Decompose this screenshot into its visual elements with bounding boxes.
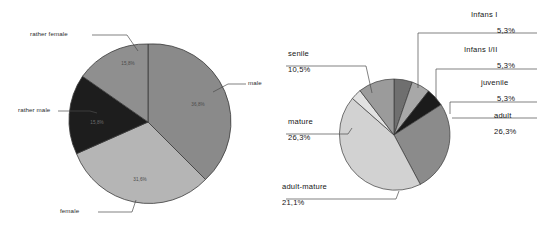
pct-mature: 26,3% <box>288 134 311 142</box>
right-pie-slices <box>339 79 450 190</box>
pie-charts-svg <box>0 0 543 235</box>
pct-senile: 10,5% <box>288 66 311 74</box>
pct-male: 36,8% <box>191 102 205 107</box>
label-infans-1: Infans I <box>471 11 498 19</box>
pct-rather-male: 15,8% <box>90 120 104 125</box>
pct-female: 31,6% <box>133 177 147 182</box>
label-mature: mature <box>288 118 313 126</box>
pct-infans-1-2: 5,3% <box>497 62 515 70</box>
label-male: male <box>248 79 262 87</box>
label-senile: senile <box>288 50 309 58</box>
pct-infans-1: 5,3% <box>497 27 515 35</box>
label-adult: adult <box>494 112 511 120</box>
figure-canvas: rather female male rather male female 36… <box>0 0 543 235</box>
pct-adult-mature: 21,1% <box>282 199 305 207</box>
pct-adult: 26,3% <box>494 128 517 136</box>
label-rather-male: rather male <box>18 106 50 114</box>
label-adult-mature: adult-mature <box>282 183 327 191</box>
pct-rather-female: 15,8% <box>121 61 135 66</box>
label-juvenile: juvenile <box>481 79 508 87</box>
label-rather-female: rather female <box>30 30 68 38</box>
leader-line-female <box>98 200 136 212</box>
label-infans-1-2: Infans I/II <box>464 46 497 54</box>
label-female: female <box>60 207 79 215</box>
pct-juvenile: 5,3% <box>497 95 515 103</box>
